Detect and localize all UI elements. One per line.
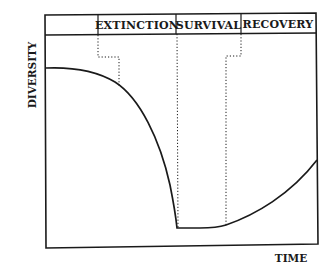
phase-label-extinction: EXTINCTION: [95, 19, 179, 32]
y-axis-label: DIVERSITY: [26, 41, 38, 108]
survival-boundary-dotted: [177, 34, 178, 228]
phase-label-survival: SURVIVAL: [176, 19, 242, 32]
diversity-time-diagram: EXTINCTION SURVIVAL RECOVERY DIVERSITY T…: [0, 0, 334, 272]
diversity-curve: [46, 68, 317, 228]
phase-label-recovery: RECOVERY: [243, 18, 314, 31]
recovery-boundary-dotted: [226, 34, 241, 225]
header-divider: [45, 33, 316, 35]
plot-frame: [45, 13, 318, 248]
x-axis-label: TIME: [275, 252, 307, 264]
